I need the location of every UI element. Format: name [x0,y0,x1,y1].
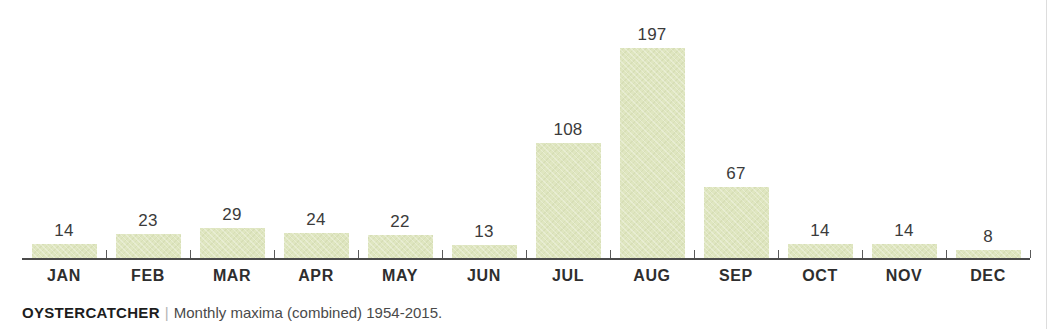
axis-tick [1030,250,1031,258]
bar [620,48,685,259]
category-label-jul: JUL [526,264,610,290]
bar-value-label: 108 [554,121,583,138]
bar-value-label: 8 [983,228,993,245]
bar-value-label: 13 [474,223,493,240]
category-label-feb: FEB [106,264,190,290]
x-axis-category-labels: JANFEBMARAPRMAYJUNJULAUGSEPOCTNOVDEC [22,264,1030,290]
bar-group: 108 [526,10,610,259]
bar [704,187,769,259]
category-label-mar: MAR [190,264,274,290]
axis-tick [862,250,863,258]
page-edge-artifact [1046,0,1047,329]
bar-value-label: 14 [810,222,829,239]
caption-separator: | [160,304,174,321]
bar-group: 13 [442,10,526,259]
x-axis-ticks [22,250,1030,258]
category-label-apr: APR [274,264,358,290]
bar-value-label: 14 [54,222,73,239]
bar-value-label: 22 [390,213,409,230]
caption-description: Monthly maxima (combined) 1954-2015. [174,304,442,321]
bar-group: 67 [694,10,778,259]
axis-tick [778,250,779,258]
axis-tick [442,250,443,258]
axis-tick [694,250,695,258]
bar-group: 14 [778,10,862,259]
figure-caption: OYSTERCATCHER|Monthly maxima (combined) … [22,303,442,323]
caption-species-name: OYSTERCATCHER [22,304,160,321]
category-label-dec: DEC [946,264,1030,290]
bar-series: 1423292422131081976714148 [22,10,1030,259]
bar-group: 8 [946,10,1030,259]
bar-group: 14 [22,10,106,259]
axis-tick [358,250,359,258]
bar-group: 24 [274,10,358,259]
category-label-nov: NOV [862,264,946,290]
bar-value-label: 14 [894,222,913,239]
bar-group: 14 [862,10,946,259]
bar-group: 22 [358,10,442,259]
axis-tick [526,250,527,258]
bar-group: 23 [106,10,190,259]
bar-value-label: 23 [138,212,157,229]
oystercatcher-bar-chart-figure: 1423292422131081976714148 JANFEBMARAPRMA… [0,0,1056,329]
category-label-aug: AUG [610,264,694,290]
axis-tick [610,250,611,258]
bar [536,143,601,259]
bar-value-label: 67 [726,165,745,182]
bar-value-label: 197 [638,26,667,43]
x-axis-line [22,258,1030,260]
axis-tick [190,250,191,258]
bar-value-label: 24 [306,211,325,228]
axis-tick [946,250,947,258]
axis-tick [106,250,107,258]
category-label-jan: JAN [22,264,106,290]
category-label-sep: SEP [694,264,778,290]
bar-group: 29 [190,10,274,259]
category-label-oct: OCT [778,264,862,290]
plot-area: 1423292422131081976714148 [22,10,1030,259]
bar-value-label: 29 [222,206,241,223]
category-label-may: MAY [358,264,442,290]
axis-tick [274,250,275,258]
category-label-jun: JUN [442,264,526,290]
bar-group: 197 [610,10,694,259]
